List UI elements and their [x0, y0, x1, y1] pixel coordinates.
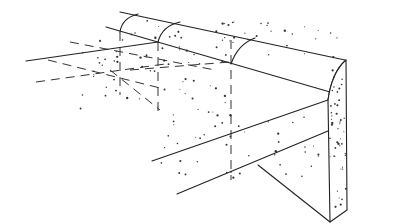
speck — [340, 169, 341, 170]
speck — [177, 31, 179, 33]
speck — [224, 95, 226, 97]
speck — [332, 90, 333, 91]
speck — [104, 58, 106, 60]
speck — [333, 76, 334, 77]
speck — [93, 71, 95, 73]
speck — [226, 172, 228, 174]
speck — [102, 65, 103, 66]
speck — [113, 79, 115, 81]
speck — [278, 141, 280, 143]
speck — [210, 85, 211, 86]
speck — [212, 111, 213, 112]
speck — [168, 63, 170, 65]
speck — [114, 60, 116, 62]
speck — [304, 26, 305, 27]
speck — [340, 203, 342, 205]
speck — [336, 104, 338, 106]
speck — [313, 145, 314, 146]
speck — [99, 40, 101, 42]
speck — [337, 191, 338, 192]
speck — [329, 137, 331, 139]
speck — [154, 70, 156, 72]
speck — [333, 86, 334, 87]
speck — [244, 132, 245, 133]
speck — [340, 138, 341, 139]
speck — [215, 30, 217, 32]
speck — [169, 36, 171, 38]
speck — [116, 51, 117, 52]
speck — [337, 91, 339, 93]
speck — [161, 47, 163, 49]
speck — [334, 103, 336, 105]
speck — [195, 137, 196, 138]
speck — [150, 70, 152, 72]
speck — [338, 99, 340, 101]
speck — [331, 119, 332, 120]
speck — [338, 87, 340, 89]
speck — [284, 29, 286, 31]
speck — [173, 121, 175, 123]
speck — [221, 122, 223, 124]
speck — [339, 123, 340, 124]
speck — [226, 144, 228, 146]
speck — [244, 33, 245, 34]
speck — [139, 56, 141, 58]
speck — [232, 22, 233, 23]
speck — [216, 46, 218, 48]
speck — [229, 40, 230, 41]
speck — [301, 176, 303, 178]
speck — [116, 56, 118, 58]
speck — [82, 94, 84, 96]
speck — [177, 143, 179, 145]
speck — [225, 54, 227, 56]
speck — [337, 128, 338, 129]
speck — [122, 39, 124, 41]
speck — [227, 24, 229, 26]
speck — [193, 54, 194, 55]
speck — [232, 42, 233, 43]
speck — [275, 150, 277, 152]
speck — [277, 132, 279, 134]
speck — [208, 111, 210, 113]
speck — [332, 56, 334, 58]
speck — [334, 147, 336, 149]
speck — [329, 156, 330, 157]
speck — [266, 25, 267, 26]
speck — [268, 121, 269, 122]
curb-diagram — [0, 0, 396, 224]
speck — [318, 30, 319, 31]
speck — [80, 108, 82, 110]
speck — [221, 60, 223, 62]
speck — [334, 206, 336, 208]
speck — [239, 172, 241, 174]
speck — [270, 31, 271, 32]
speck — [224, 23, 225, 24]
speck — [331, 122, 333, 124]
speck — [225, 102, 226, 103]
speck — [131, 33, 133, 35]
speck — [345, 155, 346, 156]
speck — [230, 171, 232, 173]
speck — [221, 22, 223, 24]
speck — [345, 188, 347, 190]
speck — [139, 98, 140, 99]
speck — [203, 134, 204, 135]
speck — [344, 118, 345, 119]
speck — [173, 114, 174, 115]
speck — [345, 153, 346, 154]
speck — [115, 90, 117, 92]
speck — [285, 173, 287, 175]
speck — [317, 153, 319, 155]
speck — [336, 141, 338, 143]
speck — [268, 54, 269, 55]
speck — [216, 114, 218, 116]
speck — [174, 35, 176, 37]
speck — [331, 112, 333, 114]
speck — [286, 45, 288, 47]
speck — [93, 76, 94, 77]
speck — [82, 52, 83, 53]
speck — [93, 74, 94, 75]
speck — [197, 161, 198, 162]
speck — [248, 155, 250, 157]
speck — [342, 168, 343, 169]
